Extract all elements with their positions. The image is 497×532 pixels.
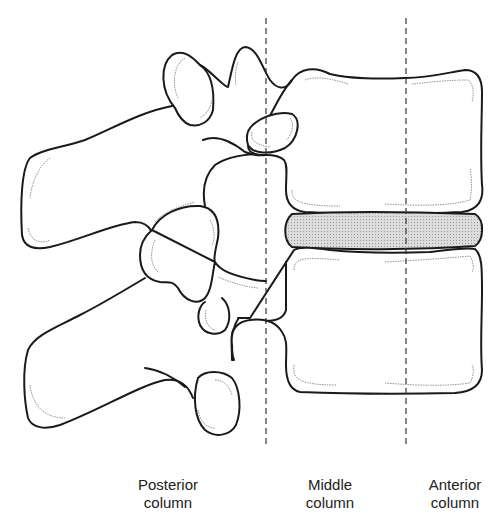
inferior-articular-nodule bbox=[198, 298, 229, 334]
spine-column-diagram bbox=[0, 0, 497, 532]
middle-column-line1: Middle bbox=[275, 476, 385, 494]
upper-spinous-process bbox=[21, 106, 172, 248]
upper-superior-process bbox=[163, 53, 213, 126]
anterior-column-label: Anterior column bbox=[400, 476, 497, 512]
middle-column-line2: column bbox=[275, 494, 385, 512]
lower-spinous-process bbox=[24, 278, 193, 428]
anterior-column-line2: column bbox=[400, 494, 497, 512]
upper-mid-process bbox=[200, 47, 292, 88]
lower-facet bbox=[195, 372, 240, 435]
posterior-column-line2: column bbox=[113, 494, 223, 512]
upper-pedicle bbox=[204, 154, 255, 206]
anterior-column-line1: Anterior bbox=[400, 476, 497, 494]
middle-column-label: Middle column bbox=[275, 476, 385, 512]
posterior-column-label: Posterior column bbox=[113, 476, 223, 512]
intervertebral-disc bbox=[285, 212, 482, 249]
middle-articular-process bbox=[140, 206, 266, 302]
posterior-column-line1: Posterior bbox=[113, 476, 223, 494]
